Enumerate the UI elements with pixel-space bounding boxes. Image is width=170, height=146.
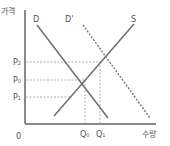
y-axis-label: 가격 (1, 6, 15, 16)
x-axis-label: 수량 (142, 129, 157, 139)
s-label: S (131, 15, 136, 24)
origin-label: 0 (16, 132, 21, 141)
p1-label: P1 (13, 93, 21, 102)
supply-curve-s (54, 24, 134, 116)
p0-label: P0 (13, 76, 21, 85)
p2-label: P2 (13, 58, 21, 67)
d-label: D (33, 15, 39, 24)
d-prime-label: D' (65, 15, 73, 24)
demand-curve-d (37, 25, 108, 118)
q1-label: Q1 (96, 130, 105, 139)
supply-demand-diagram: 가격 수량 0 D D' S P2 P0 P1 Q0 Q1 (0, 0, 170, 146)
q0-label: Q0 (80, 130, 89, 139)
